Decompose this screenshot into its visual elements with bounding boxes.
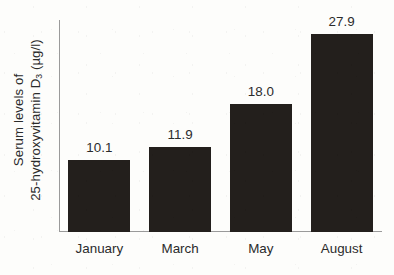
bar-may[interactable] xyxy=(230,104,292,232)
plot-area: 10.111.918.027.9 xyxy=(59,20,382,232)
bar-slot: 27.9 xyxy=(311,20,373,232)
x-axis-category-labels: JanuaryMarchMayAugust xyxy=(59,240,382,262)
bar-march[interactable] xyxy=(149,147,211,232)
bar-slot: 10.1 xyxy=(68,20,130,232)
bar-august[interactable] xyxy=(311,34,373,232)
bar-chart-figure: Serum levels of 25-hydroxyvitamin D3 (µg… xyxy=(0,0,394,275)
y-axis-title-line-2-suffix: (µg/l) xyxy=(28,39,43,74)
y-axis-title-line-2-prefix: 25-hydroxyvitamin D xyxy=(28,79,43,201)
bar-value-label-august: 27.9 xyxy=(329,15,355,29)
y-axis-title: Serum levels of 25-hydroxyvitamin D3 (µg… xyxy=(0,0,56,240)
y-axis-title-line-2: 25-hydroxyvitamin D3 (µg/l) xyxy=(28,39,46,201)
bar-slot: 11.9 xyxy=(149,20,211,232)
bar-value-label-may: 18.0 xyxy=(248,85,274,99)
y-axis-title-line-1: Serum levels of xyxy=(11,39,28,201)
bar-january[interactable] xyxy=(68,160,130,232)
x-axis-label-january: January xyxy=(59,240,140,258)
bar-value-label-march: 11.9 xyxy=(168,128,193,142)
bar-value-label-january: 10.1 xyxy=(86,141,112,155)
bar-slot: 18.0 xyxy=(230,20,292,232)
x-axis-label-may: May xyxy=(221,240,302,258)
x-axis-label-august: August xyxy=(301,240,382,258)
y-axis-title-subscript: 3 xyxy=(34,74,44,79)
y-axis-title-text: Serum levels of 25-hydroxyvitamin D3 (µg… xyxy=(11,39,45,201)
x-axis-label-march: March xyxy=(140,240,221,258)
